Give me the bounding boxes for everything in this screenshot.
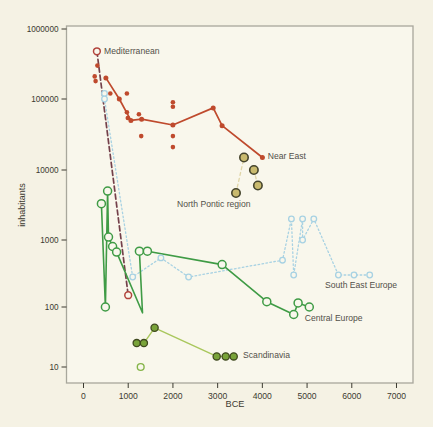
series-label-central-europe: Central Europe [305,313,363,323]
series-marker-central-europe [104,187,112,195]
series-label-near-east: Near East [268,151,307,161]
series-marker-central-europe [218,261,226,269]
series-marker-mediterranean [94,48,101,55]
series-marker-mediterranean [125,292,132,299]
series-label-north-pontic: North Pontic region [177,199,251,209]
series-marker-near-east [170,123,175,128]
series-marker-central-europe [143,247,151,255]
x-tick-label: 1000 [119,391,138,401]
series-marker-scandinavia [213,353,220,360]
x-tick-label: 0 [81,391,86,401]
series-marker-near-east-settlements [171,104,176,109]
series-marker-scandinavia [151,324,158,331]
series-marker-near-east [211,105,216,110]
series-marker-near-east-settlements [93,79,98,84]
series-marker-scandinavia-outlier [137,364,144,371]
series-marker-central-europe [113,248,121,256]
series-marker-south-east-europe [300,237,306,243]
x-tick-label: 4000 [253,391,272,401]
series-marker-south-east-europe [289,216,295,222]
y-tick-label: 100 [45,303,59,312]
series-marker-near-east-settlements [171,134,176,139]
series-marker-central-europe [290,311,298,319]
y-axis-title: inhabitants [17,183,27,227]
series-marker-central-europe [97,200,105,208]
series-marker-near-east-settlements [95,63,100,68]
series-marker-north-pontic [232,189,240,197]
series-marker-north-pontic [250,166,258,174]
x-tick-label: 6000 [342,391,361,401]
series-marker-south-east-europe [300,216,306,222]
x-tick-label: 3000 [208,391,227,401]
series-marker-south-east-europe [367,272,373,278]
series-marker-central-europe [135,247,143,255]
population-chart-svg: inhabitants BCE MediterraneanNear EastNo… [0,0,433,427]
series-marker-south-east-europe [311,216,317,222]
series-marker-near-east-settlements [125,110,130,115]
series-marker-south-east-europe [102,96,108,102]
series-marker-south-east-europe [130,274,136,280]
series-marker-south-east-europe [158,255,164,261]
series-marker-near-east [220,123,225,128]
series-marker-near-east-settlements [108,91,113,96]
y-tick-label: 10000 [36,166,59,175]
series-marker-near-east-settlements [92,74,97,79]
x-axis-title: BCE [226,399,245,409]
series-label-scandinavia: Scandinavia [243,350,290,360]
series-marker-central-europe [105,233,113,241]
x-tick-label: 7000 [387,391,406,401]
series-marker-south-east-europe [351,272,357,278]
population-chart-figure: inhabitants BCE MediterraneanNear EastNo… [0,0,433,427]
y-tick-label: 1000000 [27,25,59,34]
series-marker-scandinavia [222,353,229,360]
x-tick-label: 5000 [298,391,317,401]
series-marker-central-europe [305,303,313,311]
y-tick-label: 10 [49,363,59,372]
series-marker-near-east [260,155,265,160]
series-marker-north-pontic [240,153,248,161]
series-marker-south-east-europe [336,272,342,278]
series-label-mediterranean: Mediterranean [104,46,160,56]
series-label-south-east-europe: South East Europe [325,280,397,290]
series-marker-near-east-settlements [171,145,176,150]
series-marker-south-east-europe [291,272,297,278]
series-marker-near-east-settlements [171,100,176,105]
series-marker-south-east-europe [102,91,108,97]
series-marker-north-pontic [254,181,262,189]
series-marker-scandinavia [230,353,237,360]
series-marker-central-europe [263,298,271,306]
series-marker-near-east [103,75,108,80]
series-marker-near-east-settlements [137,112,142,117]
series-marker-south-east-europe [186,274,192,280]
series-marker-scandinavia [140,340,147,347]
series-marker-near-east-settlements [139,134,144,139]
series-marker-near-east [139,117,144,122]
series-marker-near-east-settlements [126,116,131,121]
y-tick-label: 100000 [31,95,59,104]
series-marker-central-europe [294,299,302,307]
series-marker-near-east-settlements [125,91,130,96]
series-marker-central-europe [101,303,109,311]
y-tick-label: 1000 [40,236,59,245]
series-marker-south-east-europe [280,257,286,263]
series-marker-near-east [117,97,122,102]
x-tick-label: 2000 [163,391,182,401]
series-marker-scandinavia [133,340,140,347]
